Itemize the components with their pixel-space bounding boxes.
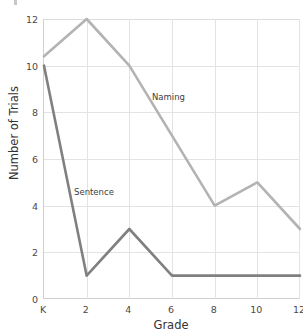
x-tick-8: 8: [194, 305, 234, 315]
x-tick-12: 12: [279, 305, 303, 315]
x-axis-tick-labels: K 2 4 6 8 10 12: [0, 0, 303, 336]
x-tick-10: 10: [236, 305, 276, 315]
x-axis-title: Grade: [43, 318, 299, 332]
x-tick-6: 6: [151, 305, 191, 315]
x-tick-2: 2: [66, 305, 106, 315]
chart-canvas: 12 10 8 6 4 2 0 Number of Trials Naming …: [0, 0, 303, 336]
x-tick-K: K: [23, 305, 63, 315]
x-tick-4: 4: [108, 305, 148, 315]
